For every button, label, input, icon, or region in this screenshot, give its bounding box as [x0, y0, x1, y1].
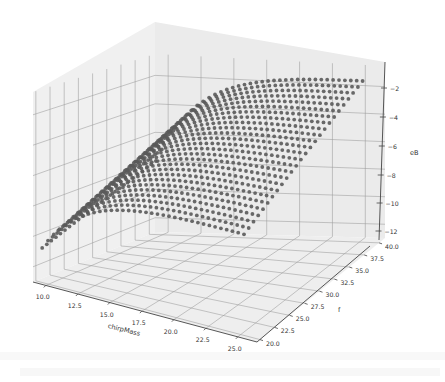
svg-text:20.0: 20.0	[266, 340, 280, 347]
svg-text:15.0: 15.0	[100, 311, 114, 318]
svg-text:−4: −4	[389, 114, 398, 121]
svg-text:−10: −10	[386, 200, 399, 207]
svg-text:−12: −12	[385, 228, 398, 235]
svg-text:37.5: 37.5	[370, 255, 384, 262]
svg-text:−2: −2	[390, 85, 399, 92]
svg-text:30.0: 30.0	[326, 291, 340, 298]
svg-text:35.0: 35.0	[355, 267, 369, 274]
svg-text:−8: −8	[387, 172, 396, 179]
svg-text:22.5: 22.5	[196, 336, 210, 343]
3d-scatter-figure: 10.012.515.017.520.022.525.0 20.022.525.…	[0, 0, 445, 382]
svg-text:22.5: 22.5	[281, 327, 295, 334]
svg-text:27.5: 27.5	[311, 303, 325, 310]
y-axis-label: f	[338, 306, 341, 314]
svg-text:32.5: 32.5	[340, 279, 354, 286]
svg-text:20.0: 20.0	[164, 328, 178, 335]
svg-text:25.0: 25.0	[228, 345, 242, 352]
svg-text:17.5: 17.5	[132, 319, 146, 326]
svg-text:10.0: 10.0	[36, 293, 50, 300]
svg-text:25.0: 25.0	[296, 315, 310, 322]
z-axis-label: eB	[410, 149, 419, 157]
svg-text:40.0: 40.0	[385, 243, 399, 250]
svg-text:−6: −6	[388, 143, 397, 150]
background-bleed-text	[0, 352, 445, 376]
svg-text:12.5: 12.5	[68, 302, 82, 309]
